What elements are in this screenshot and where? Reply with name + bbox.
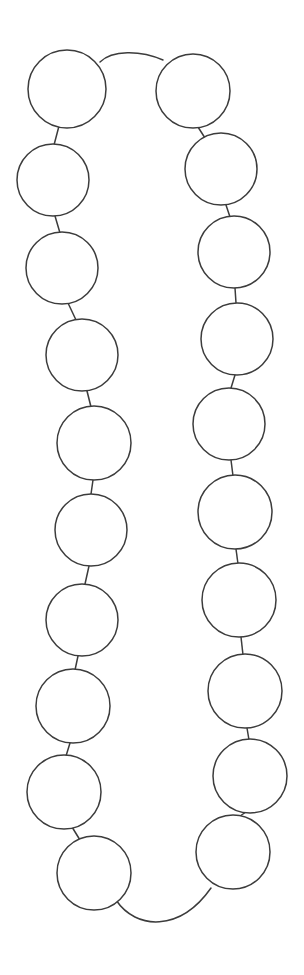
bead-right-6 [198,475,272,549]
bead-right-3 [198,216,270,288]
bead-right-10 [196,815,270,889]
bead-right-5 [193,388,265,460]
bead-left-6 [55,494,127,566]
bead-left-8 [36,669,110,743]
bead-right-7 [202,563,276,637]
bead-left-7 [46,584,118,656]
bead-link [235,288,236,303]
illustration-canvas [0,0,304,975]
bead-right-2 [185,133,257,205]
bead-left-1 [28,50,106,128]
bead-left-10 [57,836,131,910]
bead-right-9 [213,739,287,813]
bead-left-2 [17,144,89,216]
bead-left-5 [57,406,131,480]
bead-left-9 [27,755,101,829]
bead-right-4 [201,303,273,375]
bead-right-1 [156,54,230,128]
bead-right-8 [208,654,282,728]
necklace-drawing [0,0,304,975]
bead-left-3 [26,232,98,304]
bead-left-4 [46,319,118,391]
